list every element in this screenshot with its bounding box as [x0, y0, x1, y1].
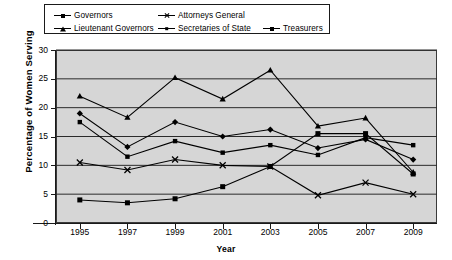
legend-label: Secretaries of State — [178, 24, 251, 33]
x-tick-label: 1995 — [60, 228, 100, 236]
legend-marker-triangle-icon — [54, 23, 71, 34]
data-point-marker — [172, 119, 178, 125]
data-point-marker — [411, 143, 415, 147]
x-tick-mark — [366, 224, 367, 229]
data-point-marker — [125, 154, 129, 158]
y-tick-label: 5 — [26, 190, 48, 198]
data-point-marker — [315, 131, 320, 136]
data-point-marker — [363, 135, 367, 139]
x-tick-mark — [413, 224, 414, 229]
data-point-marker — [77, 93, 83, 99]
x-axis-title: Year — [0, 244, 452, 254]
legend-item-secretaries-of-state: Secretaries of State — [158, 23, 251, 34]
x-tick-mark — [127, 224, 128, 229]
y-tick-label: 25 — [26, 74, 48, 82]
y-tick-label: 10 — [26, 161, 48, 169]
y-tick-label: 0 — [26, 219, 48, 227]
data-point-marker — [315, 145, 321, 151]
data-point-marker — [220, 133, 226, 139]
data-point-marker — [363, 131, 368, 136]
x-tick-label: 1999 — [155, 228, 195, 236]
x-tick-mark — [80, 224, 81, 229]
data-point-marker — [220, 150, 224, 154]
data-point-marker — [268, 143, 272, 147]
y-tick-label: 20 — [26, 103, 48, 111]
x-tick-mark — [223, 224, 224, 229]
legend-label: Attorneys General — [178, 11, 245, 20]
chart-series-layer — [56, 50, 437, 223]
x-tick-label: 2007 — [346, 228, 386, 236]
data-point-marker — [125, 200, 130, 205]
data-point-marker — [173, 196, 178, 201]
x-tick-mark — [318, 224, 319, 229]
x-tick-label: 2009 — [393, 228, 433, 236]
y-tick-mark — [51, 223, 56, 224]
x-axis-line — [33, 223, 437, 224]
y-tick-label: 15 — [26, 132, 48, 140]
legend-label: Lieutenant Governors — [74, 24, 154, 33]
x-tick-mark — [270, 224, 271, 229]
x-tick-mark — [175, 224, 176, 229]
x-tick-label: 2001 — [203, 228, 243, 236]
legend-marker-square-small-icon — [263, 23, 280, 34]
data-point-marker — [316, 153, 320, 157]
data-point-marker — [220, 184, 225, 189]
series-line-lieutenant-governors — [80, 70, 413, 172]
plot-area — [56, 50, 437, 223]
y-tick-label: 30 — [26, 46, 48, 54]
legend-marker-x-icon — [158, 10, 175, 21]
legend-item-attorneys-general: Attorneys General — [158, 10, 245, 21]
chart-legend: Governors Attorneys General Lieutenant G… — [44, 4, 330, 34]
chart-figure: Governors Attorneys General Lieutenant G… — [0, 0, 452, 260]
legend-label: Governors — [74, 11, 113, 20]
legend-marker-square-icon — [54, 10, 71, 21]
legend-marker-diamond-icon — [158, 23, 175, 34]
data-point-marker — [173, 139, 177, 143]
data-point-marker — [362, 115, 368, 121]
data-point-marker — [267, 67, 273, 73]
data-point-marker — [267, 126, 273, 132]
legend-item-governors: Governors — [54, 10, 113, 21]
legend-label: Treasurers — [283, 24, 323, 33]
x-tick-label: 1997 — [107, 228, 147, 236]
data-point-marker — [77, 197, 82, 202]
data-point-marker — [172, 74, 178, 80]
data-point-marker — [410, 156, 416, 162]
legend-item-treasurers: Treasurers — [263, 23, 323, 34]
data-point-marker — [78, 120, 82, 124]
legend-item-lieutenant-governors: Lieutenant Governors — [54, 23, 154, 34]
x-tick-label: 2005 — [298, 228, 338, 236]
x-tick-label: 2003 — [250, 228, 290, 236]
